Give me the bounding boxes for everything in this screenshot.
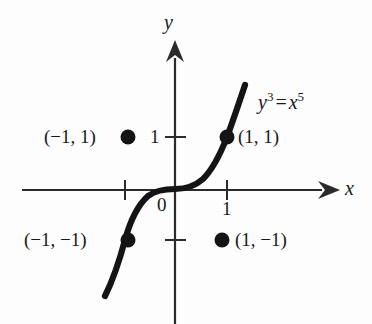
equation-operator: = — [273, 91, 288, 113]
y-tick-label-1: 1 — [150, 127, 160, 146]
point-label-1-1: (1, 1) — [238, 127, 279, 146]
point-1-1 — [220, 130, 235, 145]
point-label-1-neg1: (1, −1) — [235, 230, 287, 249]
point-neg1-neg1 — [121, 233, 136, 248]
graph-canvas — [0, 0, 372, 324]
x-axis-label: x — [345, 178, 354, 198]
point-1-neg1 — [215, 233, 230, 248]
graph-figure: y x 0 1 1 y3=x5 (−1, 1) (1, 1) (−1, −1) … — [0, 0, 372, 324]
point-neg1-1 — [121, 130, 136, 145]
x-tick-label-1: 1 — [222, 199, 232, 218]
equation-base-y: y — [258, 91, 267, 113]
point-label-neg1-neg1: (−1, −1) — [24, 230, 87, 249]
equation-exponent-5: 5 — [298, 89, 305, 104]
equation-base-x: x — [289, 91, 298, 113]
origin-label: 0 — [157, 195, 167, 214]
equation-annotation: y3=x5 — [258, 90, 304, 112]
point-label-neg1-1: (−1, 1) — [44, 127, 96, 146]
y-axis-label: y — [164, 12, 173, 32]
